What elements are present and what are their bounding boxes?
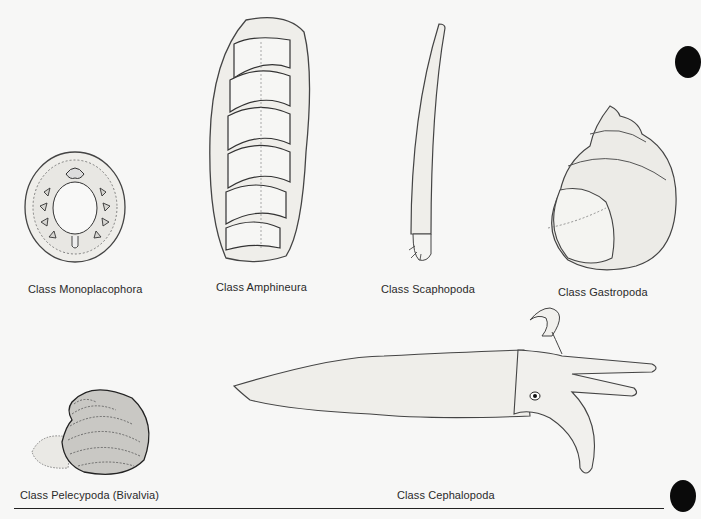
label-scaphopoda: Class Scaphopoda (381, 283, 475, 295)
label-cephalopoda: Class Cephalopoda (397, 489, 495, 501)
binder-hole-top (675, 46, 701, 78)
monoplacophora-shell-drawing (20, 148, 130, 266)
squid-drawing (232, 314, 672, 480)
clam-drawing (28, 382, 152, 478)
snail-shell-drawing (540, 104, 680, 276)
label-gastropoda: Class Gastropoda (558, 286, 648, 298)
label-amphineura: Class Amphineura (216, 281, 307, 293)
bottom-rule-2 (14, 508, 664, 509)
tusk-shell-drawing (405, 22, 457, 272)
label-pelecypoda: Class Pelecypoda (Bivalvia) (20, 489, 159, 501)
label-monoplacophora: Class Monoplacophora (28, 283, 143, 295)
binder-hole-bottom (670, 480, 696, 512)
chiton-drawing (206, 14, 312, 264)
